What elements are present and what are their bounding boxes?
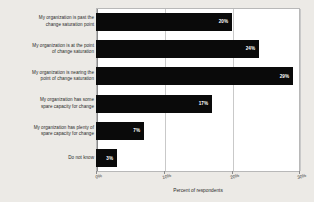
category-label-line2: point of change saturation [2,76,94,82]
bar-value-label: 20% [219,19,232,24]
category-label-line2: of change saturation [2,49,94,55]
category-label: My organization is past the change satur… [2,15,94,27]
bar-row: My organization is at the point of chang… [0,35,314,62]
bar[interactable]: 29% [96,67,293,85]
bar-value-label: 17% [199,101,212,106]
bar-row: My organization is past the change satur… [0,8,314,35]
category-label: My organization is at the point of chang… [2,43,94,55]
bar-track: 3% [96,145,300,172]
category-label: My organization is nearing the point of … [2,70,94,82]
bar-value-label: 7% [133,128,144,133]
category-label-line2: spare capacity for change [2,104,94,110]
x-tick-label: 10% [162,173,172,180]
category-label: My organization has some spare capacity … [2,97,94,109]
x-axis-ticks: 0% 10% 20% 30% [96,174,300,184]
bar-track: 20% [96,8,300,35]
category-label-line2: change saturation point [2,22,94,28]
bar-track: 24% [96,35,300,62]
category-label-line2: spare capacity for change [2,131,94,137]
bar-row: My organization has plenty of spare capa… [0,117,314,144]
bar-rows: My organization is past the change satur… [0,8,314,172]
x-tick-label: 20% [230,173,240,180]
bar-track: 7% [96,117,300,144]
bar-track: 17% [96,90,300,117]
x-tick-label: 30% [297,173,307,180]
bar[interactable]: 20% [96,13,232,31]
bar-row: Do not know 3% [0,145,314,172]
x-tick-label: 0% [95,173,103,180]
bar[interactable]: 7% [96,122,144,140]
bar[interactable]: 24% [96,40,259,58]
bar-value-label: 3% [106,156,117,161]
bar-value-label: 24% [246,46,259,51]
category-label: Do not know [2,155,94,161]
x-axis-title: Percent of respondents [96,188,300,193]
bar-row: My organization has some spare capacity … [0,90,314,117]
bar[interactable]: 3% [96,149,117,167]
bar-chart: My organization is past the change satur… [0,0,314,202]
category-label: My organization has plenty of spare capa… [2,125,94,137]
category-label-line1: Do not know [2,155,94,161]
bar[interactable]: 17% [96,95,212,113]
bar-value-label: 29% [280,74,293,79]
bar-row: My organization is nearing the point of … [0,63,314,90]
bar-track: 29% [96,63,300,90]
